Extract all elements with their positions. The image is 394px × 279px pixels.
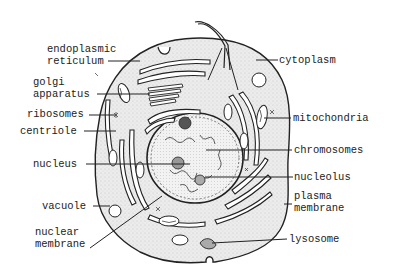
label-ribosomes: ribosomes xyxy=(27,108,84,120)
label-cytoplasm: cytoplasm xyxy=(279,54,336,66)
label-nuclear-membrane: nuclear membrane xyxy=(35,226,85,250)
label-nucleolus: nucleolus xyxy=(294,171,351,183)
cell-diagram: endoplasmic reticulum golgi apparatus ri… xyxy=(0,0,394,279)
label-mitochondria: mitochondria xyxy=(293,112,369,124)
label-plasma-membrane: plasma membrane xyxy=(294,190,344,214)
label-centriole: centriole xyxy=(20,125,77,137)
label-lysosome: lysosome xyxy=(289,233,339,245)
label-vacuole: vacuole xyxy=(42,200,86,212)
label-chromosomes: chromosomes xyxy=(294,144,363,156)
nucleus-outline xyxy=(147,113,243,203)
label-golgi-apparatus: golgi apparatus xyxy=(33,76,90,100)
label-endoplasmic-reticulum: endoplasmic reticulum xyxy=(47,43,116,67)
vacuole xyxy=(109,205,121,217)
label-nucleus: nucleus xyxy=(33,158,77,170)
